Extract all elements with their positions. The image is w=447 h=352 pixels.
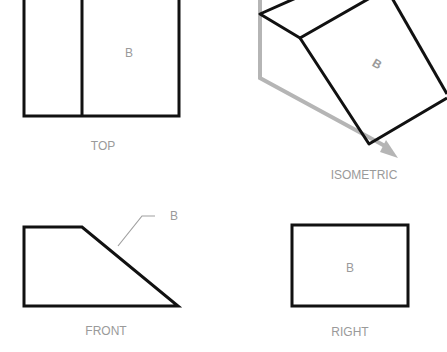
front-view-caption: FRONT (85, 324, 127, 338)
right-face-label: B (346, 261, 354, 275)
iso-top-edges (260, 0, 370, 38)
front-view-outline (24, 227, 178, 306)
iso-face-label: B (370, 56, 385, 73)
front-leader-label: B (170, 209, 178, 223)
leader-line (118, 216, 155, 246)
iso-right-edge (392, 0, 447, 94)
top-view-caption: TOP (91, 139, 115, 153)
top-view: B TOP (24, 0, 179, 153)
front-view: B FRONT (24, 209, 178, 338)
orthographic-projection-diagram: B TOP B ISOMETRIC B FRONT B RIGHT (0, 0, 447, 352)
top-face-label: B (125, 46, 133, 60)
right-view: B RIGHT (292, 225, 408, 339)
isometric-view-caption: ISOMETRIC (331, 168, 398, 182)
isometric-view: B ISOMETRIC (260, 0, 447, 182)
top-view-outline (24, 0, 179, 116)
right-view-caption: RIGHT (331, 325, 369, 339)
